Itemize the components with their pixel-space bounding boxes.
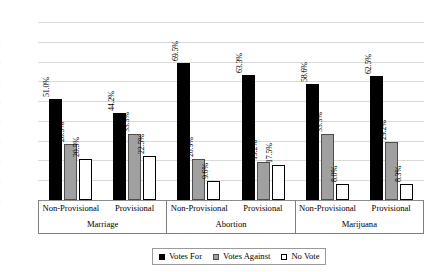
bar-no-vote bbox=[143, 156, 156, 201]
bar-value-label: 63.3% bbox=[236, 53, 244, 73]
bar-value-label: 33.3% bbox=[316, 112, 324, 132]
bar-groups: 51.0% 28.5% 20.5% 44.2% 33.3% bbox=[38, 22, 424, 200]
bar-slot: 8.0% bbox=[336, 22, 349, 200]
subgroup-abortion-non-provisional: 69.5% 20.9% 9.6% bbox=[167, 22, 231, 200]
x-axis-category-table: Non-Provisional Provisional Non-Provisio… bbox=[38, 200, 424, 234]
x-axis-group-row: Marriage Abortion Marijuana bbox=[39, 216, 423, 233]
x-label-abortion-non-provisional: Non-Provisional bbox=[167, 200, 231, 216]
bar-slot: 51.0% bbox=[49, 22, 62, 200]
bar-slot: 62.5% bbox=[370, 22, 383, 200]
x-group-label-marijuana: Marijuana bbox=[296, 216, 423, 233]
bar-votes-against bbox=[257, 162, 270, 200]
bar-value-label: 17.5% bbox=[266, 144, 274, 164]
bar-chart: 90.0%80.0%70.0%60.0%50.0%40.0%30.0%20.0%… bbox=[0, 0, 436, 272]
x-label-marriage-provisional: Provisional bbox=[103, 200, 168, 216]
bar-slot: 28.5% bbox=[64, 22, 77, 200]
bar-slot: 19.2% bbox=[257, 22, 270, 200]
bar-slot: 58.6% bbox=[306, 22, 319, 200]
bar-slot: 69.5% bbox=[177, 22, 190, 200]
x-group-label-marriage: Marriage bbox=[39, 216, 167, 233]
bar-slot: 22.5% bbox=[143, 22, 156, 200]
subgroup-abortion-provisional: 63.3% 19.2% 17.5% bbox=[231, 22, 295, 200]
subgroup-marriage-provisional: 44.2% 33.3% 22.5% bbox=[102, 22, 166, 200]
x-label-marijuana-non-provisional: Non-Provisional bbox=[296, 200, 360, 216]
bar-votes-for bbox=[49, 99, 62, 200]
bar-value-label: 58.6% bbox=[301, 62, 309, 82]
bar-value-label: 29.2% bbox=[380, 121, 388, 141]
group-marijuana: 58.6% 33.3% 8.0% 62.5% 29.2% bbox=[295, 22, 424, 200]
legend-swatch-icon bbox=[159, 254, 165, 260]
bar-no-vote bbox=[272, 165, 285, 200]
bar-value-label: 8.3% bbox=[395, 166, 403, 182]
x-label-abortion-provisional: Provisional bbox=[231, 200, 296, 216]
bar-value-label: 44.2% bbox=[108, 91, 116, 111]
x-group-label-abortion: Abortion bbox=[167, 216, 295, 233]
bar-value-label: 33.3% bbox=[123, 112, 131, 132]
legend: Votes For Votes Against No Vote bbox=[152, 248, 326, 265]
subgroup-marriage-non-provisional: 51.0% 28.5% 20.5% bbox=[38, 22, 102, 200]
bar-slot: 9.6% bbox=[207, 22, 220, 200]
group-abortion: 69.5% 20.9% 9.6% 63.3% 19.2% bbox=[167, 22, 296, 200]
legend-label: No Vote bbox=[291, 252, 319, 261]
bar-value-label: 22.5% bbox=[138, 134, 146, 154]
legend-label: Votes Against bbox=[223, 252, 270, 261]
x-label-marriage-non-provisional: Non-Provisional bbox=[39, 200, 103, 216]
bar-no-vote bbox=[207, 181, 220, 200]
subgroup-marijuana-provisional: 62.5% 29.2% 8.3% bbox=[360, 22, 424, 200]
bar-value-label: 69.5% bbox=[172, 41, 180, 61]
bar-value-label: 9.6% bbox=[202, 163, 210, 179]
bar-slot: 63.3% bbox=[242, 22, 255, 200]
bar-value-label: 20.5% bbox=[73, 138, 81, 158]
legend-item-votes-for: Votes For bbox=[159, 252, 202, 261]
legend-swatch-icon bbox=[213, 254, 219, 260]
x-axis-subcategory-row: Non-Provisional Provisional Non-Provisio… bbox=[39, 200, 423, 216]
bar-slot: 44.2% bbox=[113, 22, 126, 200]
bar-value-label: 62.5% bbox=[365, 55, 373, 75]
bar-slot: 8.3% bbox=[400, 22, 413, 200]
bar-no-vote bbox=[79, 159, 92, 200]
legend-item-no-vote: No Vote bbox=[281, 252, 319, 261]
bar-slot: 17.5% bbox=[272, 22, 285, 200]
bar-votes-for bbox=[306, 84, 319, 200]
legend-swatch-icon bbox=[281, 254, 287, 260]
bar-votes-for bbox=[242, 75, 255, 200]
bar-votes-for bbox=[177, 63, 190, 200]
bar-value-label: 8.0% bbox=[331, 166, 339, 182]
bar-slot: 33.3% bbox=[128, 22, 141, 200]
bar-no-vote bbox=[400, 184, 413, 200]
subgroup-marijuana-non-provisional: 58.6% 33.3% 8.0% bbox=[295, 22, 359, 200]
bar-value-label: 28.5% bbox=[58, 122, 66, 142]
bar-value-label: 20.9% bbox=[187, 137, 195, 157]
bar-value-label: 19.2% bbox=[251, 140, 259, 160]
x-label-marijuana-provisional: Provisional bbox=[359, 200, 423, 216]
legend-label: Votes For bbox=[169, 252, 202, 261]
bar-no-vote bbox=[336, 184, 349, 200]
group-marriage: 51.0% 28.5% 20.5% 44.2% 33.3% bbox=[38, 22, 167, 200]
bar-value-label: 51.0% bbox=[43, 77, 51, 97]
bar-slot: 20.5% bbox=[79, 22, 92, 200]
legend-item-votes-against: Votes Against bbox=[213, 252, 270, 261]
